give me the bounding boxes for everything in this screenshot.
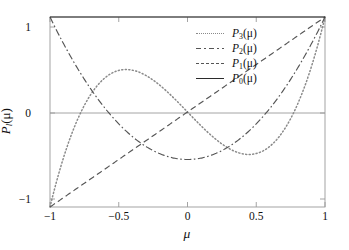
legend-line-sample-dotted-icon bbox=[196, 33, 224, 35]
figure-canvas: −1 −0.5 0 0.5 1 1 0 −1 μ Pl(μ) P3(μ) P2(… bbox=[0, 0, 349, 250]
legend-p1-tail: (μ) bbox=[243, 57, 257, 69]
x-tick-label-0: −1 bbox=[44, 210, 56, 222]
x-tick-label-2: 0 bbox=[185, 210, 191, 222]
x-axis-label: μ bbox=[184, 226, 191, 242]
y-tick-label-m1: −1 bbox=[19, 193, 31, 205]
legend-p2-tail: (μ) bbox=[243, 42, 257, 54]
y-axis-label-tail: (μ) bbox=[0, 108, 13, 124]
x-tick-label-1: −0.5 bbox=[108, 210, 129, 222]
legend-p2-main: P bbox=[232, 42, 239, 54]
legend-line-sample-solid-icon bbox=[196, 78, 224, 80]
x-tick-label-4: 1 bbox=[322, 210, 328, 222]
legend-item-p2[interactable]: P2(μ) bbox=[196, 41, 316, 56]
legend-p1-main: P bbox=[232, 57, 239, 69]
legend-item-p1[interactable]: P1(μ) bbox=[196, 56, 316, 71]
legend-p0-main: P bbox=[232, 72, 239, 84]
legend-p3-main: P bbox=[232, 27, 239, 39]
chart-legend: P3(μ) P2(μ) P1(μ) P0(μ) bbox=[196, 26, 316, 86]
y-axis-label-main: P bbox=[0, 126, 13, 134]
y-axis-label: Pl(μ) bbox=[0, 86, 14, 156]
legend-item-p3[interactable]: P3(μ) bbox=[196, 26, 316, 41]
y-tick-label-0: 0 bbox=[25, 107, 31, 119]
y-tick-label-1: 1 bbox=[25, 21, 31, 33]
legend-line-sample-dashed-icon bbox=[196, 63, 224, 65]
legend-line-sample-dashdot-icon bbox=[196, 48, 224, 49]
legend-item-p0[interactable]: P0(μ) bbox=[196, 71, 316, 86]
x-tick-label-3: 0.5 bbox=[249, 210, 263, 222]
legend-label-p0: P0(μ) bbox=[232, 71, 257, 89]
legend-p3-tail: (μ) bbox=[243, 27, 257, 39]
legend-p0-tail: (μ) bbox=[243, 72, 257, 84]
